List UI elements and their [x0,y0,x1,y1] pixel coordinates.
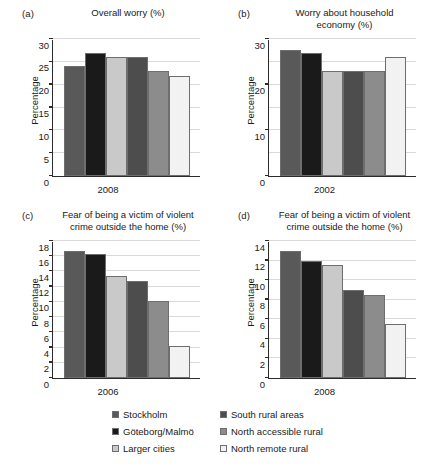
y-tick-mark [49,175,53,176]
bar [64,66,85,176]
legend-label: North remote rural [231,444,308,454]
y-tick-mark [49,240,53,241]
panel-a-title: Overall worry (%) [46,7,210,19]
bar [343,290,364,378]
panel-b-y-ticklabels: 0102030 [235,40,265,177]
y-tick-mark [265,298,269,299]
panel-a: (a) Overall worry (%) Percentage 0510152… [0,0,216,202]
y-tick-mark [49,285,53,286]
panel-c-label: (c) [22,210,33,221]
y-tick-mark [49,301,53,302]
panel-d-title-line2: crime outside the home (%) [262,221,427,233]
panel-d-bars [269,242,416,378]
legend-item: North remote rural [220,440,362,457]
panel-a-bars [53,40,200,176]
y-tick-label: 10 [254,282,265,292]
y-tick-mark [49,152,53,153]
panel-b-title: Worry about household economy (%) [262,7,427,30]
legend-swatch-icon [112,411,119,418]
y-tick-label: 16 [38,258,49,268]
bar [301,261,322,378]
panel-b: (b) Worry about household economy (%) Pe… [216,0,433,202]
y-tick-mark [265,377,269,378]
y-tick-label: 12 [254,262,265,272]
panel-d-plot-area: 02468101214 [268,242,416,379]
bar [148,71,169,176]
figure-four-panel-bar-charts: (a) Overall worry (%) Percentage 0510152… [0,0,433,466]
y-tick-mark [49,361,53,362]
legend-label: South rural areas [231,410,304,420]
y-tick-mark [49,316,53,317]
bar [385,324,406,378]
panel-grid: (a) Overall worry (%) Percentage 0510152… [0,0,433,404]
panel-a-label: (a) [22,8,34,19]
legend-swatch-icon [220,428,227,435]
legend-item: Stockholm [112,406,220,423]
y-tick-mark [49,255,53,256]
bar [322,265,343,378]
y-tick-mark [265,279,269,280]
y-tick-mark [265,83,269,84]
panel-b-label: (b) [238,8,250,19]
y-tick-label: 12 [38,288,49,298]
y-tick-label: 5 [44,155,49,165]
y-tick-mark [265,240,269,241]
panel-b-x-axis-label: 2002 [216,184,433,195]
bar [169,346,190,378]
y-tick-mark [265,338,269,339]
y-tick-mark [49,270,53,271]
y-tick-label: 25 [38,63,49,73]
bar [85,254,106,378]
bar [343,71,364,176]
y-tick-label: 2 [260,360,265,370]
panel-c: (c) Fear of being a victim of violent cr… [0,202,216,404]
legend-item: Göteborg/Malmö [112,423,220,440]
gridline [269,240,416,241]
bar [385,57,406,176]
panel-d-label: (d) [238,210,250,221]
legend-item: Larger cities [112,440,220,457]
y-tick-label: 10 [254,132,265,142]
bar [127,57,148,176]
y-tick-label: 30 [254,41,265,51]
panel-b-title-line1: Worry about household [262,7,427,19]
legend-swatch-icon [112,445,119,452]
panel-c-title-line1: Fear of being a victim of violent [46,209,210,221]
panel-d-x-axis-label: 2008 [216,386,433,397]
bar [64,251,85,378]
y-tick-label: 2 [44,364,49,374]
y-tick-mark [49,346,53,347]
chart-legend: StockholmSouth rural areasGöteborg/Malmö… [0,404,433,466]
legend-item: South rural areas [220,406,362,423]
gridline [53,38,200,39]
y-tick-label: 8 [260,301,265,311]
panel-d: (d) Fear of being a victim of violent cr… [216,202,433,404]
y-tick-label: 14 [38,273,49,283]
legend-items: StockholmSouth rural areasGöteborg/Malmö… [112,406,362,457]
y-tick-label: 20 [38,86,49,96]
y-tick-label: 30 [38,41,49,51]
legend-swatch-icon [112,428,119,435]
legend-swatch-icon [220,411,227,418]
panel-a-x-axis-label: 2008 [0,184,216,195]
bar [148,301,169,378]
panel-c-y-ticklabels: 024681012141618 [19,242,49,379]
panel-b-bars [269,40,416,176]
y-tick-mark [265,38,269,39]
bar [106,57,127,176]
y-tick-mark [49,83,53,84]
panel-c-plot-area: 024681012141618 [52,242,200,379]
panel-d-y-ticklabels: 02468101214 [235,242,265,379]
legend-label: Stockholm [123,410,167,420]
y-tick-label: 14 [254,243,265,253]
legend-label: North accessible rural [231,427,323,437]
y-tick-label: 6 [260,321,265,331]
y-tick-label: 15 [38,109,49,119]
y-tick-label: 20 [254,86,265,96]
y-tick-mark [49,377,53,378]
y-tick-label: 8 [44,319,49,329]
panel-b-title-line2: economy (%) [262,19,427,31]
y-tick-mark [49,331,53,332]
legend-label: Larger cities [123,444,175,454]
panel-a-plot-area: 051015202530 [52,40,200,177]
